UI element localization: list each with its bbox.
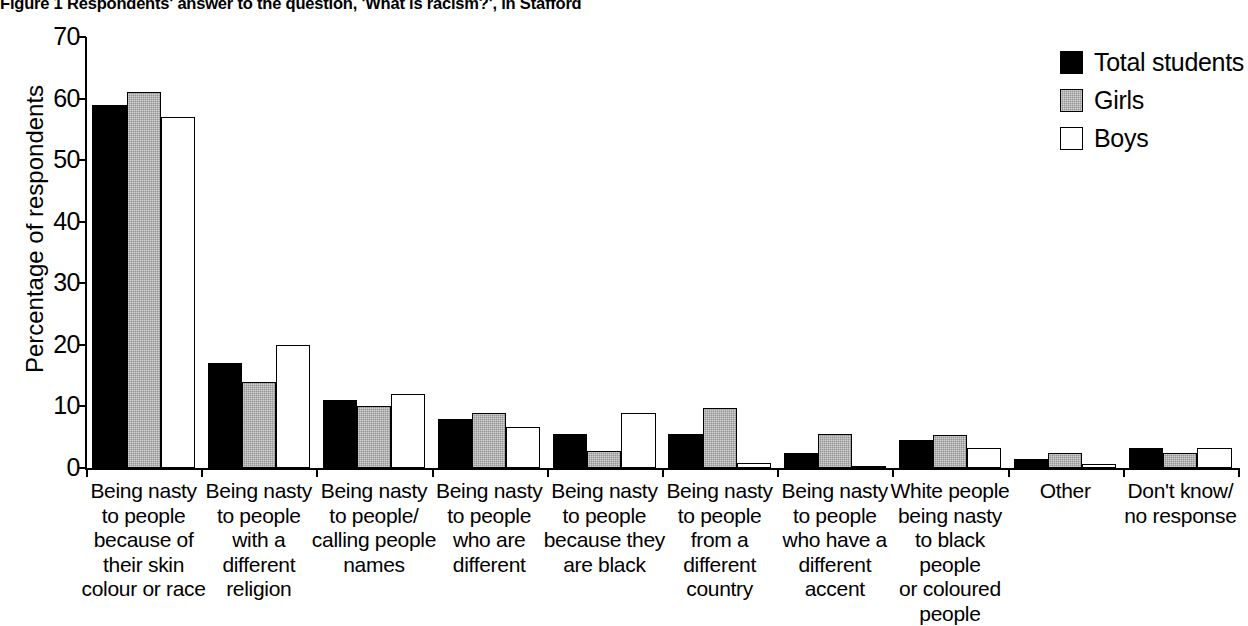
bar: [242, 382, 276, 468]
bar: [737, 463, 771, 468]
x-tick-6: [777, 468, 779, 477]
bar: [553, 434, 587, 468]
category-label: Being nastyto people/calling peoplenames: [310, 479, 437, 577]
bar: [323, 400, 357, 468]
x-tick-7: [892, 468, 894, 477]
category-label: Being nastyto peoplebecause oftheir skin…: [80, 479, 207, 602]
bar: [276, 345, 310, 468]
bar: [1014, 459, 1048, 468]
x-tick-8: [1008, 468, 1010, 477]
legend-swatch-icon: [1060, 89, 1083, 112]
bar: [703, 408, 737, 468]
bar: [127, 92, 161, 468]
category-label: Being nastyto peoplebecause theyare blac…: [541, 479, 668, 577]
bar: [899, 440, 933, 468]
y-tick-label-40: 40: [20, 209, 80, 234]
legend-swatch-icon: [1060, 51, 1083, 74]
legend-label: Boys: [1094, 125, 1148, 151]
bar: [818, 434, 852, 468]
legend-label: Girls: [1094, 87, 1144, 113]
legend-item: Girls: [1060, 81, 1248, 119]
category-label: Being nastyto peoplefrom adifferentcount…: [656, 479, 783, 602]
bar: [852, 466, 886, 468]
y-tick-label-30: 30: [20, 270, 80, 295]
bar: [784, 453, 818, 468]
legend-label: Total students: [1094, 49, 1244, 75]
category-label: Don't know/no response: [1117, 479, 1244, 528]
bar: [621, 413, 655, 468]
bar: [668, 434, 702, 468]
legend-item: Boys: [1060, 119, 1248, 157]
y-tick-label-50: 50: [20, 147, 80, 172]
legend-swatch-icon: [1060, 127, 1083, 150]
legend-item: Total students: [1060, 43, 1248, 81]
bar: [933, 435, 967, 468]
category-label: Being nastyto peoplewho have adifferenta…: [771, 479, 898, 602]
category-label: Other: [1002, 479, 1129, 504]
x-tick-1: [201, 468, 203, 477]
bar: [587, 451, 621, 468]
x-tick-5: [662, 468, 664, 477]
x-tick-2: [316, 468, 318, 477]
bar: [506, 427, 540, 468]
bar: [208, 363, 242, 468]
y-tick-label-10: 10: [20, 393, 80, 418]
category-label: Being nastyto peoplewith adifferentrelig…: [195, 479, 322, 602]
bar: [967, 448, 1001, 468]
x-tick-9: [1123, 468, 1125, 477]
bar: [92, 105, 126, 468]
bar: [438, 419, 472, 468]
bar: [391, 394, 425, 468]
x-tick-3: [432, 468, 434, 477]
y-tick-label-70: 70: [20, 24, 80, 49]
chart-legend: Total studentsGirlsBoys: [1060, 43, 1248, 157]
y-tick-label-60: 60: [20, 86, 80, 111]
x-tick-10: [1238, 468, 1240, 477]
bar: [1048, 453, 1082, 468]
x-tick-4: [547, 468, 549, 477]
bar: [472, 413, 506, 468]
x-tick-0: [86, 468, 88, 477]
category-label: Being nastyto peoplewho aredifferent: [426, 479, 553, 577]
y-tick-label-0: 0: [20, 455, 80, 480]
category-label: White peoplebeing nastyto black peopleor…: [886, 479, 1013, 626]
bar: [161, 117, 195, 468]
bar: [1163, 453, 1197, 468]
y-tick-label-20: 20: [20, 332, 80, 357]
bar: [1082, 464, 1116, 468]
bar: [1129, 448, 1163, 468]
bar: [1197, 448, 1231, 468]
bar: [357, 406, 391, 468]
